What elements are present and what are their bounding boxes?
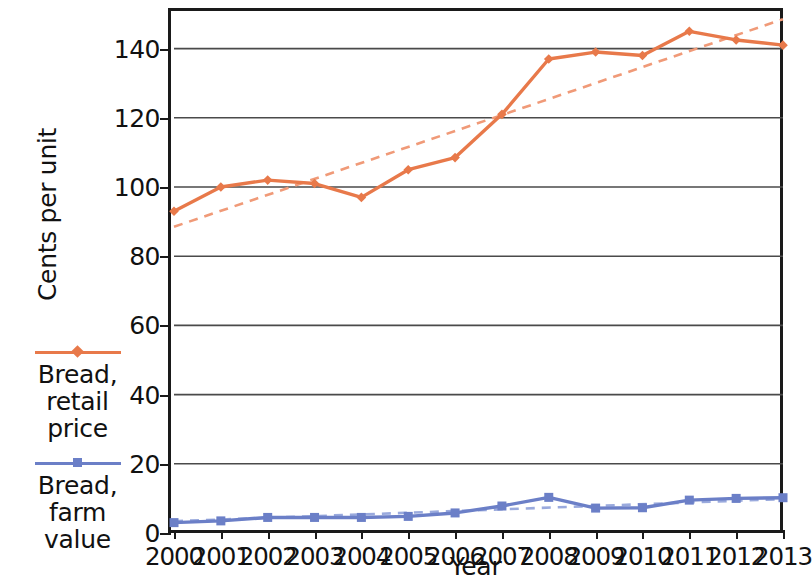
y-tick-mark [160, 256, 171, 258]
y-tick-mark [160, 118, 171, 120]
x-tick-mark [174, 530, 176, 539]
data-point-marker [731, 35, 741, 45]
y-tick-label: 40 [129, 380, 160, 409]
legend-swatch-retail [35, 345, 121, 359]
x-tick-mark [408, 530, 410, 539]
y-tick-label: 60 [129, 311, 160, 340]
x-tick-mark [596, 530, 598, 539]
x-axis-title: Year [168, 552, 783, 581]
plot-svg [168, 8, 789, 539]
data-point-marker [357, 513, 366, 522]
y-tick-label: 120 [114, 103, 160, 132]
data-point-marker [779, 493, 788, 502]
y-tick-label: 20 [129, 449, 160, 478]
data-point-marker [544, 493, 553, 502]
y-tick-mark [160, 325, 171, 327]
data-point-marker [638, 503, 647, 512]
data-point-marker [451, 508, 460, 517]
series-line [174, 31, 783, 211]
x-tick-mark [268, 530, 270, 539]
x-tick-mark [455, 530, 457, 539]
x-tick-mark [221, 530, 223, 539]
legend-swatch-farm [35, 456, 121, 470]
square-marker-icon [73, 458, 82, 467]
trendline [174, 19, 783, 227]
x-tick-mark [315, 530, 317, 539]
data-point-marker [263, 175, 273, 185]
y-tick-mark [160, 533, 171, 535]
data-point-marker [310, 513, 319, 522]
plot-area: 0204060801001201402000200120022003200420… [168, 8, 783, 533]
y-tick-mark [160, 395, 171, 397]
data-point-marker [497, 502, 506, 511]
y-tick-mark [160, 187, 171, 189]
y-tick-mark [160, 49, 171, 51]
x-tick-mark [689, 530, 691, 539]
y-axis-title: Cents per unit [33, 120, 62, 310]
y-tick-label: 80 [129, 242, 160, 271]
data-point-marker [591, 504, 600, 513]
data-point-marker [732, 494, 741, 503]
data-point-marker [685, 496, 694, 505]
x-tick-mark [783, 530, 785, 539]
x-tick-mark [361, 530, 363, 539]
y-tick-label: 100 [114, 173, 160, 202]
legend-label-farm: Bread,farmvalue [0, 472, 155, 553]
data-point-marker [263, 513, 272, 522]
x-tick-mark [736, 530, 738, 539]
data-point-marker [170, 518, 179, 527]
data-point-marker [216, 516, 225, 525]
y-tick-label: 140 [114, 34, 160, 63]
data-point-marker [404, 512, 413, 521]
x-tick-mark [549, 530, 551, 539]
y-tick-mark [160, 464, 171, 466]
x-tick-mark [642, 530, 644, 539]
diamond-marker-icon [71, 345, 84, 358]
x-tick-mark [502, 530, 504, 539]
